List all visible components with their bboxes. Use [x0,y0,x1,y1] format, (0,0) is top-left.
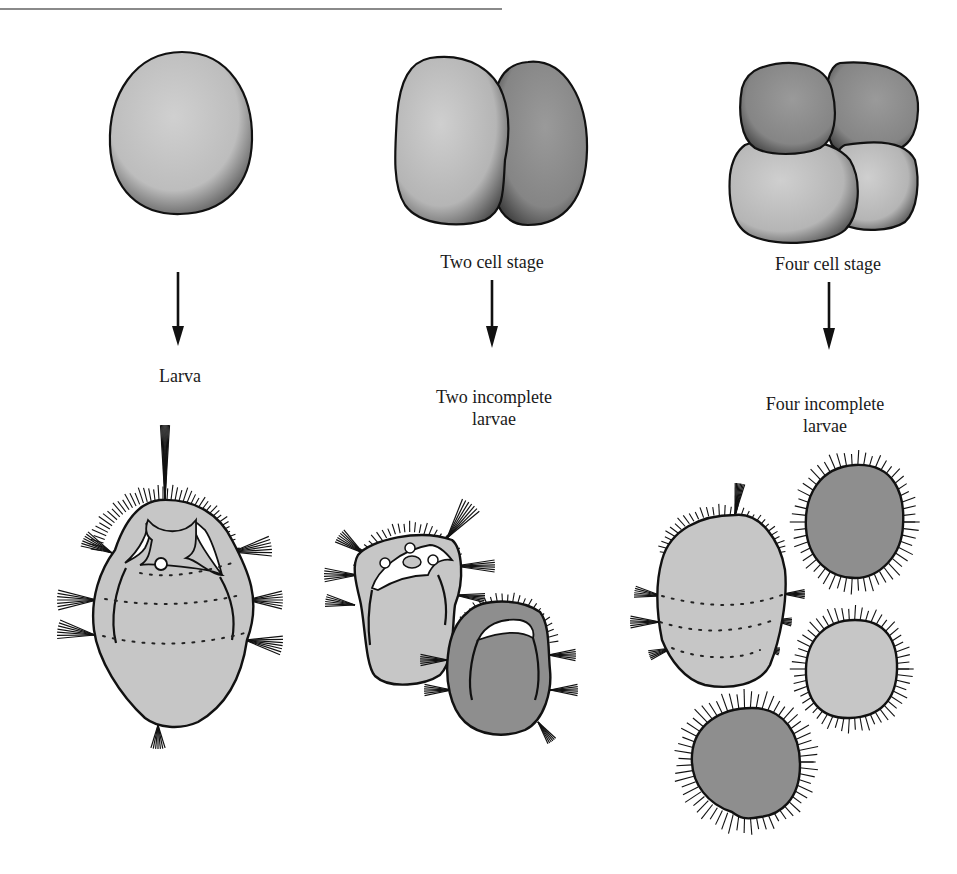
arrow-1 [172,272,184,346]
complete-larva [57,425,283,749]
cilium [865,716,869,730]
cilium [665,531,675,537]
cilium [904,514,916,515]
cilium [829,574,835,589]
four-cell-embryo [730,63,919,243]
cilium [899,548,913,555]
cilium [695,512,698,519]
cilium [880,571,886,582]
cilium [99,517,112,526]
cilium [682,782,696,787]
two-cell-embryo [395,57,587,225]
cilium [676,765,692,766]
cilium [798,490,812,497]
cilium [851,454,852,465]
cilium [716,701,722,713]
cilium [903,535,916,538]
cilium [729,694,733,710]
cilium [737,816,739,831]
cilium [818,568,826,578]
cilium [811,469,822,480]
cilium [884,705,895,717]
cilium [681,728,698,737]
cilium [893,691,907,698]
cilium [842,717,844,731]
cilium [810,622,821,633]
cilium [795,733,810,740]
cilium [837,453,841,467]
cilium [388,529,391,536]
cilium [709,703,717,716]
cilium [149,488,151,501]
cilium [842,608,844,621]
cilium [713,507,714,515]
cilium [823,616,829,627]
cilium [144,488,148,502]
arrow-3 [823,282,835,350]
cilium [797,640,811,647]
cilium [901,541,912,545]
embryo-development-figure: Larva Two cell stage Two incomplete larv… [0,0,957,874]
cilium [858,579,859,591]
cilium [901,497,915,502]
cilium [683,787,698,795]
cilium [890,696,902,704]
cilium [851,579,852,595]
cilium [675,771,692,774]
cilium [154,489,155,500]
cilium [799,746,818,750]
cilium [904,529,919,531]
cilium [710,808,717,820]
cilium [795,655,808,658]
cilium [827,609,833,624]
cilium [792,662,806,664]
cilium [382,530,386,538]
cilium [392,524,395,534]
cilium [415,522,416,532]
cilium [794,535,808,538]
cilium [893,559,902,567]
cilium [800,768,818,770]
cilium [175,487,178,501]
cilium [858,450,859,465]
cilium [799,773,815,776]
cilium [138,488,143,503]
cilium [864,453,866,466]
cilium [829,455,835,470]
cilium [798,648,809,652]
blastomere-top-left [740,63,835,154]
cilium [864,578,866,591]
cilium [404,524,405,532]
cilium [817,465,825,476]
cilium [744,689,745,708]
cilium [737,694,739,708]
cilium [795,506,808,509]
cilium [675,750,693,753]
cilium [848,718,849,734]
cilium [869,577,873,591]
cilium [794,529,806,530]
cilium [889,563,900,575]
cilium [678,758,692,759]
cilium [844,453,846,466]
arrow-2 [486,280,498,348]
cilium [895,647,909,652]
incomplete-larva-sphere-top-right [790,450,920,595]
cilium [549,641,558,642]
cilium [874,574,878,584]
cilium [113,503,123,514]
cilium [808,630,817,638]
cilium [898,662,910,663]
cilium [806,559,818,569]
two-incomplete-larvae-label-line1: Two incomplete [436,387,552,407]
cilium [860,717,862,730]
cilium [860,608,862,621]
cilium [377,532,383,541]
incomplete-larva-sphere-mid-right [790,605,914,734]
cilium [693,796,704,805]
cilium [419,524,421,533]
cilium [678,743,694,747]
cilium [719,504,720,515]
cilium [729,814,734,833]
cilium [824,462,830,473]
